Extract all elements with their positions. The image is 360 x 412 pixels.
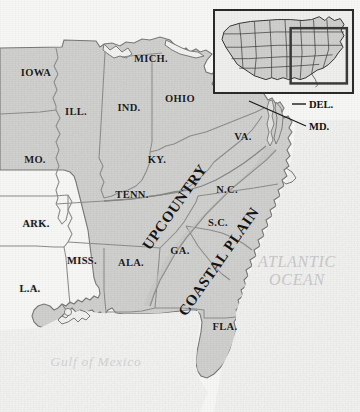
locator-inset[interactable] — [213, 9, 354, 94]
water-label-gulf-of-mexico: Gulf of Mexico — [51, 354, 142, 369]
inset-florida — [312, 74, 318, 87]
inset-us-landmass — [222, 17, 344, 80]
callout-label-delaware: DEL. — [309, 99, 333, 110]
water-label-atlantic-ocean: ATLANTIC OCEAN — [258, 253, 336, 289]
inset-geometry — [215, 11, 352, 92]
callout-label-maryland: MD. — [309, 121, 329, 132]
atlantic-line-2: OCEAN — [258, 271, 336, 289]
map-figure: IOWA MICH. ILL. IND. OHIO MO. KY. VA. TE… — [0, 0, 360, 412]
maryland-leader-line — [249, 101, 306, 126]
atlantic-line-1: ATLANTIC — [258, 253, 336, 271]
